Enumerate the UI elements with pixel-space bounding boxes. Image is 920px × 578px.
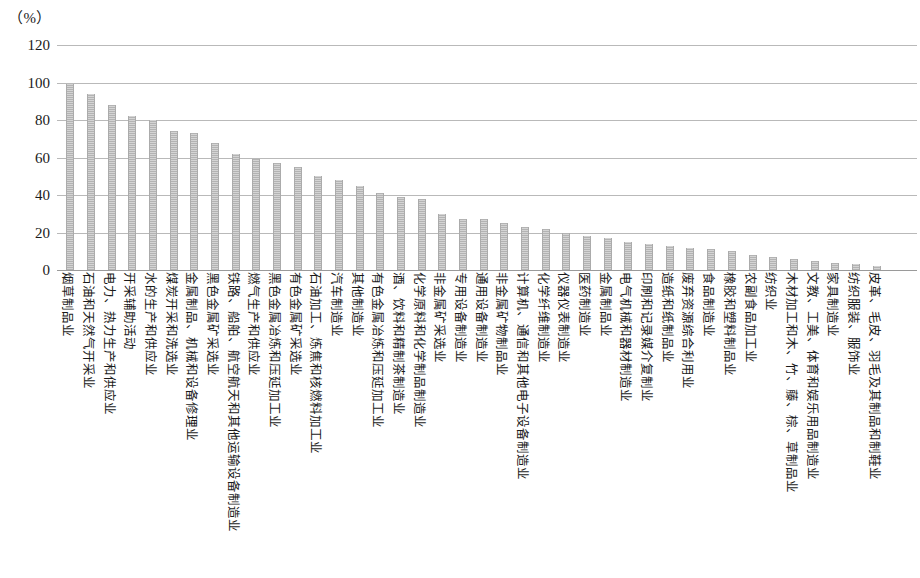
category-label: 橡胶和塑料制品业 [722, 272, 735, 376]
category-label: 烟草制品业 [61, 272, 74, 337]
bar [418, 199, 426, 270]
category-label: 非金属矿物制品业 [495, 272, 508, 376]
category-label: 印刷和记录媒介复制业 [640, 272, 653, 402]
bar [604, 238, 612, 270]
category-label: 计算机、通信和其他电子设备制造业 [516, 272, 529, 480]
bar [376, 193, 384, 270]
category-label: 开采辅助活动 [123, 272, 136, 350]
category-label: 家具制造业 [826, 272, 839, 337]
bar [624, 242, 632, 270]
category-label: 酒、饮料和精制茶制造业 [392, 272, 405, 415]
bar [521, 227, 529, 270]
category-label: 化学纤维制造业 [536, 272, 549, 363]
y-tick-label-20: 20 [0, 225, 50, 240]
y-tick-label-80: 80 [0, 113, 50, 128]
bar [831, 263, 839, 271]
bar [128, 116, 136, 270]
category-label: 黑色金属冶炼和压延加工业 [268, 272, 281, 428]
y-tick-label-40: 40 [0, 188, 50, 203]
bar [252, 159, 260, 270]
bar [666, 246, 674, 270]
y-tick-label-100: 100 [0, 75, 50, 90]
bar [190, 133, 198, 270]
bar [397, 197, 405, 270]
bar [232, 154, 240, 270]
unit-label: （%） [8, 6, 52, 27]
bar [480, 219, 488, 270]
category-label: 化学原料和化学制品制造业 [412, 272, 425, 428]
category-label: 金属制品、机械和设备修理业 [185, 272, 198, 441]
category-label: 电力、热力生产和供应业 [102, 272, 115, 415]
y-tick-label-60: 60 [0, 150, 50, 165]
bar [149, 120, 157, 270]
bar [108, 105, 116, 270]
category-label: 皮革、毛皮、羽毛及其制品和制鞋业 [867, 272, 880, 480]
category-label: 有色金属冶炼和压延加工业 [371, 272, 384, 428]
bar [459, 219, 467, 270]
bar [87, 94, 95, 270]
category-label: 石油加工、炼焦和核燃料加工业 [309, 272, 322, 454]
category-label: 通用设备制造业 [474, 272, 487, 363]
category-label: 其他制造业 [350, 272, 363, 337]
bar [294, 167, 302, 270]
bar [500, 223, 508, 270]
bar [811, 261, 819, 270]
y-axis: 120100806040200 [0, 45, 50, 270]
bar [335, 180, 343, 270]
category-label: 铁路、船舶、航空航天和其他运输设备制造业 [226, 272, 239, 532]
category-label: 燃气生产和供应业 [247, 272, 260, 376]
gridline-0 [57, 270, 917, 271]
bar [686, 248, 694, 271]
bar-chart: （%） 120100806040200 烟草制品业石油和天然气开采业电力、热力生… [0, 0, 920, 578]
bar [873, 266, 881, 270]
category-label: 有色金属矿采选业 [288, 272, 301, 376]
y-tick-label-0: 0 [0, 263, 50, 278]
bar [645, 244, 653, 270]
plot-area [57, 45, 917, 270]
category-label: 黑色金属矿采选业 [206, 272, 219, 376]
bars-layer [57, 45, 917, 270]
category-label: 木材加工和木、竹、藤、棕、草制品业 [784, 272, 797, 493]
category-label: 食品制造业 [702, 272, 715, 337]
bar [749, 255, 757, 270]
category-label: 非金属矿采选业 [433, 272, 446, 363]
y-tick-label-120: 120 [0, 38, 50, 53]
bar [707, 249, 715, 270]
category-labels: 烟草制品业石油和天然气开采业电力、热力生产和供应业开采辅助活动水的生产和供应业煤… [57, 272, 917, 578]
bar [66, 84, 74, 270]
bar [273, 163, 281, 270]
bar [562, 233, 570, 271]
bar [314, 176, 322, 270]
category-label: 专用设备制造业 [454, 272, 467, 363]
category-label: 石油和天然气开采业 [81, 272, 94, 389]
bar [728, 251, 736, 270]
bar [438, 214, 446, 270]
category-label: 纺织服装、服饰业 [846, 272, 859, 376]
category-label: 金属制品业 [598, 272, 611, 337]
category-label: 医药制造业 [578, 272, 591, 337]
bar [356, 186, 364, 270]
bar [211, 143, 219, 271]
category-label: 农副食品加工业 [743, 272, 756, 363]
bar [769, 257, 777, 270]
bar [170, 131, 178, 270]
category-label: 煤炭开采和洗选业 [164, 272, 177, 376]
category-label: 造纸和纸制品业 [660, 272, 673, 363]
bar [852, 264, 860, 270]
category-label: 废弃资源综合利用业 [681, 272, 694, 389]
category-label: 仪器仪表制造业 [557, 272, 570, 363]
category-label: 纺织业 [764, 272, 777, 311]
bar [790, 259, 798, 270]
category-label: 汽车制造业 [330, 272, 343, 337]
bar [542, 229, 550, 270]
bar [583, 236, 591, 270]
category-label: 电气机械和器材制造业 [619, 272, 632, 402]
category-label: 文教、工美、体育和娱乐用品制造业 [805, 272, 818, 480]
category-label: 水的生产和供应业 [143, 272, 156, 376]
